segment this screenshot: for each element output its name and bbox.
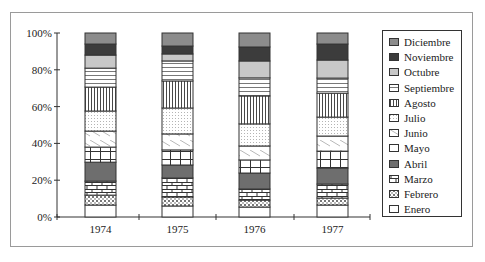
segment-junio	[85, 131, 116, 147]
legend-swatch-icon	[389, 84, 399, 92]
segment-agosto	[239, 96, 270, 124]
legend-swatch-icon	[389, 99, 399, 107]
segment-octubre	[162, 54, 193, 61]
legend-label: Enero	[404, 203, 430, 215]
segment-septiembre	[239, 78, 270, 96]
x-tick-label: 1975	[167, 223, 190, 235]
segment-agosto	[317, 93, 348, 117]
segment-enero	[317, 205, 348, 217]
bar-1977	[317, 33, 348, 217]
segment-marzo	[85, 181, 116, 195]
segment-agosto	[85, 87, 116, 111]
legend-item-abril: Abril	[389, 157, 427, 171]
legend-swatch-icon	[389, 53, 399, 61]
legend-item-febrero: Febrero	[389, 187, 438, 201]
segment-noviembre	[162, 46, 193, 54]
segment-abril	[239, 173, 270, 189]
segment-julio	[239, 124, 270, 146]
bar-1975	[162, 33, 193, 217]
legend-swatch-icon	[389, 190, 399, 198]
y-tick-label: 40%	[32, 137, 52, 149]
legend: DiciembreNoviembreOctubreSeptiembreAgost…	[382, 30, 462, 217]
legend-swatch-icon	[389, 205, 399, 213]
legend-label: Septiembre	[404, 82, 454, 94]
segment-noviembre	[85, 44, 116, 55]
segment-febrero	[85, 195, 116, 205]
segment-julio	[85, 111, 116, 131]
legend-label: Marzo	[404, 173, 433, 185]
y-tick-label: 60%	[32, 101, 52, 113]
segment-agosto	[162, 81, 193, 108]
segment-mayo	[162, 150, 193, 165]
legend-item-mayo: Mayo	[389, 141, 430, 155]
segment-octubre	[317, 60, 348, 78]
segment-septiembre	[85, 68, 116, 87]
segment-noviembre	[317, 44, 348, 60]
y-tick-label: 100%	[26, 27, 52, 39]
legend-swatch-icon	[389, 160, 399, 168]
legend-label: Noviembre	[404, 51, 453, 63]
segment-julio	[162, 108, 193, 134]
legend-swatch-icon	[389, 114, 399, 122]
legend-item-noviembre: Noviembre	[389, 50, 453, 64]
segment-abril	[85, 162, 116, 181]
legend-swatch-icon	[389, 129, 399, 137]
segment-diciembre	[317, 33, 348, 44]
legend-item-septiembre: Septiembre	[389, 81, 454, 95]
segment-mayo	[317, 151, 348, 168]
y-axis: 0%20%40%60%80%100%	[26, 27, 60, 223]
legend-label: Agosto	[404, 97, 436, 109]
segment-febrero	[317, 198, 348, 205]
legend-label: Diciembre	[404, 36, 450, 48]
legend-label: Octubre	[404, 66, 439, 78]
legend-item-octubre: Octubre	[389, 65, 439, 79]
segment-enero	[85, 205, 116, 217]
segment-marzo	[239, 189, 270, 200]
segment-febrero	[162, 197, 193, 206]
bars	[85, 33, 348, 217]
x-tick-label: 1977	[322, 223, 345, 235]
y-tick-label: 0%	[37, 211, 52, 223]
segment-marzo	[317, 184, 348, 198]
segment-junio	[162, 134, 193, 150]
legend-item-diciembre: Diciembre	[389, 35, 450, 49]
legend-label: Febrero	[404, 188, 438, 200]
legend-label: Abril	[404, 158, 427, 170]
segment-diciembre	[85, 33, 116, 44]
legend-swatch-icon	[389, 38, 399, 46]
legend-swatch-icon	[389, 68, 399, 76]
segment-abril	[317, 168, 348, 184]
x-tick-label: 1976	[244, 223, 267, 235]
y-tick-label: 20%	[32, 174, 52, 186]
segment-diciembre	[162, 33, 193, 46]
legend-label: Mayo	[404, 142, 430, 154]
legend-swatch-icon	[389, 175, 399, 183]
segment-junio	[317, 136, 348, 151]
segment-mayo	[239, 160, 270, 173]
legend-item-marzo: Marzo	[389, 172, 433, 186]
legend-label: Junio	[404, 127, 428, 139]
segment-enero	[162, 206, 193, 217]
segment-noviembre	[239, 47, 270, 61]
segment-octubre	[85, 55, 116, 68]
y-tick-label: 80%	[32, 64, 52, 76]
segment-enero	[239, 207, 270, 217]
legend-label: Julio	[404, 112, 425, 124]
segment-marzo	[162, 178, 193, 197]
segment-febrero	[239, 200, 270, 207]
segment-octubre	[239, 61, 270, 78]
segment-septiembre	[162, 61, 193, 81]
segment-junio	[239, 146, 270, 160]
bar-1974	[85, 33, 116, 217]
segment-abril	[162, 165, 193, 178]
segment-septiembre	[317, 78, 348, 93]
legend-item-agosto: Agosto	[389, 96, 436, 110]
segment-mayo	[85, 147, 116, 162]
legend-item-julio: Julio	[389, 111, 425, 125]
bar-1976	[239, 33, 270, 217]
x-tick-label: 1974	[90, 223, 113, 235]
legend-swatch-icon	[389, 144, 399, 152]
segment-julio	[317, 117, 348, 136]
legend-item-junio: Junio	[389, 126, 428, 140]
legend-item-enero: Enero	[389, 202, 430, 216]
